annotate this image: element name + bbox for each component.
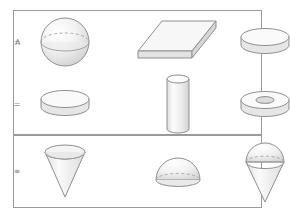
shape-sphere [22, 11, 108, 73]
shape-disc-operand [22, 73, 108, 135]
equals-sign-difference: = [14, 73, 20, 135]
shape-slab [132, 11, 224, 73]
csg-figure: ∧ = [0, 0, 274, 219]
shape-cone [22, 136, 108, 207]
shape-cone-hemisphere-result [222, 136, 274, 207]
csg-row-union: + = [14, 136, 263, 207]
shape-hemisphere [132, 136, 224, 207]
csg-panel-top: ∧ = [13, 10, 262, 135]
equals-sign-union: = [14, 136, 20, 207]
shape-disc-result [222, 11, 274, 73]
csg-panel-bottom: + = [13, 135, 262, 208]
shape-washer-result [222, 73, 274, 135]
csg-row-difference: – = [14, 73, 263, 135]
csg-row-intersection: ∧ = [14, 11, 263, 73]
equals-sign-intersection: = [14, 11, 20, 73]
shape-cylinder [132, 73, 224, 135]
